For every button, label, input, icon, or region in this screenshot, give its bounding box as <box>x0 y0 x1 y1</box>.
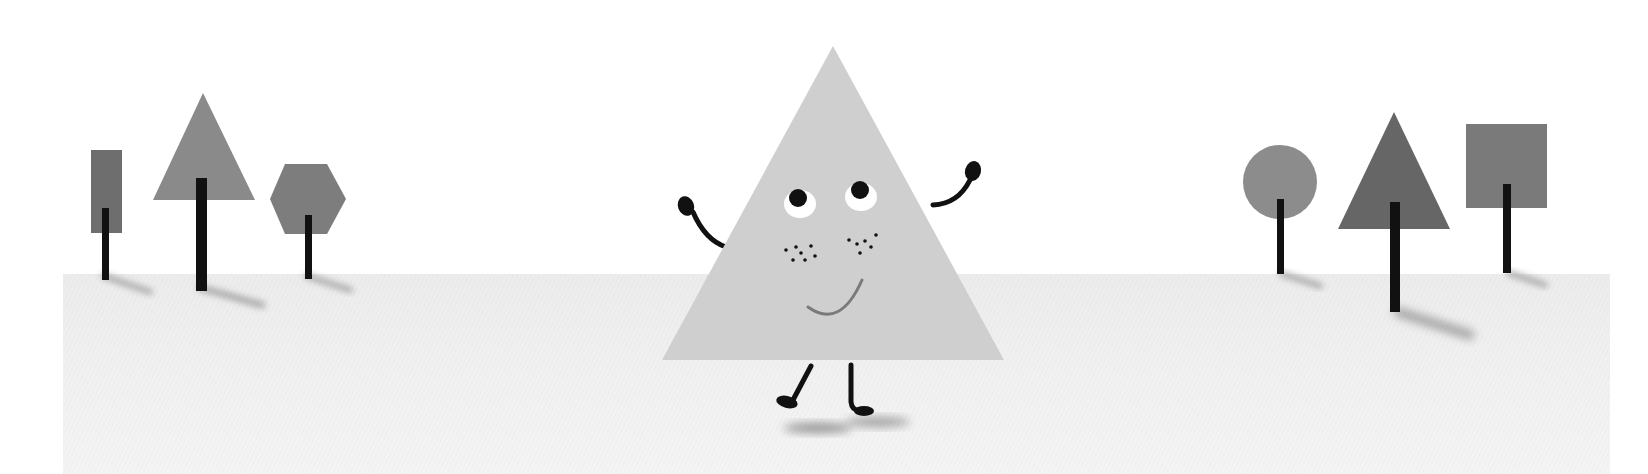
tree-triangle-right <box>1338 112 1470 335</box>
tree-circle-right <box>1243 145 1320 286</box>
tree-hexagon-left <box>270 164 350 290</box>
tree-trunk <box>305 215 312 279</box>
tree-trunk <box>1390 202 1400 312</box>
scene-artwork <box>0 0 1648 474</box>
tree-square-right <box>1466 124 1547 285</box>
legs <box>775 365 874 416</box>
pupil-left <box>789 189 807 207</box>
pupil-right <box>851 181 869 199</box>
tree-trunk <box>1277 199 1284 274</box>
tree-trunk <box>102 208 109 280</box>
tree-trunk <box>1503 184 1511 273</box>
tree-triangle-left <box>153 93 262 305</box>
illustration-scene <box>0 0 1648 474</box>
triangle-character <box>662 46 1004 433</box>
tree-trunk <box>196 178 207 291</box>
tree-rectangle-left <box>91 150 150 292</box>
